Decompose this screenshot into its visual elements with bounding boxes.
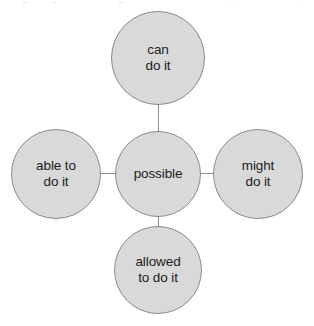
scan-artifact — [297, 1, 300, 4]
node-can-do-it[interactable]: can do it — [111, 11, 205, 105]
scan-artifact — [22, 1, 27, 4]
diagram-canvas: can do it able to do it possible might d… — [0, 0, 314, 326]
scan-artifact — [51, 1, 56, 4]
scan-artifact — [118, 1, 123, 4]
node-label: can do it — [145, 42, 170, 75]
connector-center-to-top — [158, 104, 159, 132]
node-label: might do it — [242, 158, 275, 191]
node-able-to-do-it[interactable]: able to do it — [11, 129, 101, 219]
node-allowed-to-do-it[interactable]: allowed to do it — [114, 226, 202, 314]
node-label: able to do it — [36, 158, 76, 191]
node-label: possible — [134, 166, 183, 183]
connector-center-to-right — [200, 173, 214, 174]
scan-artifact — [231, 1, 234, 4]
node-label: allowed to do it — [135, 254, 180, 287]
node-possible[interactable]: possible — [115, 131, 201, 217]
node-might-do-it[interactable]: might do it — [213, 129, 303, 219]
connector-center-to-left — [100, 173, 116, 174]
